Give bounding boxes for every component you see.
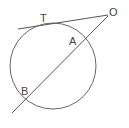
label-t: T <box>40 12 47 24</box>
geometry-figure: T O A B <box>0 0 129 128</box>
label-o: O <box>109 6 118 18</box>
diagram-canvas: T O A B <box>0 0 129 128</box>
label-b: B <box>21 85 28 97</box>
secant-line-oab <box>12 16 108 113</box>
tangent-line-ot <box>18 15 108 29</box>
label-a: A <box>69 35 77 47</box>
